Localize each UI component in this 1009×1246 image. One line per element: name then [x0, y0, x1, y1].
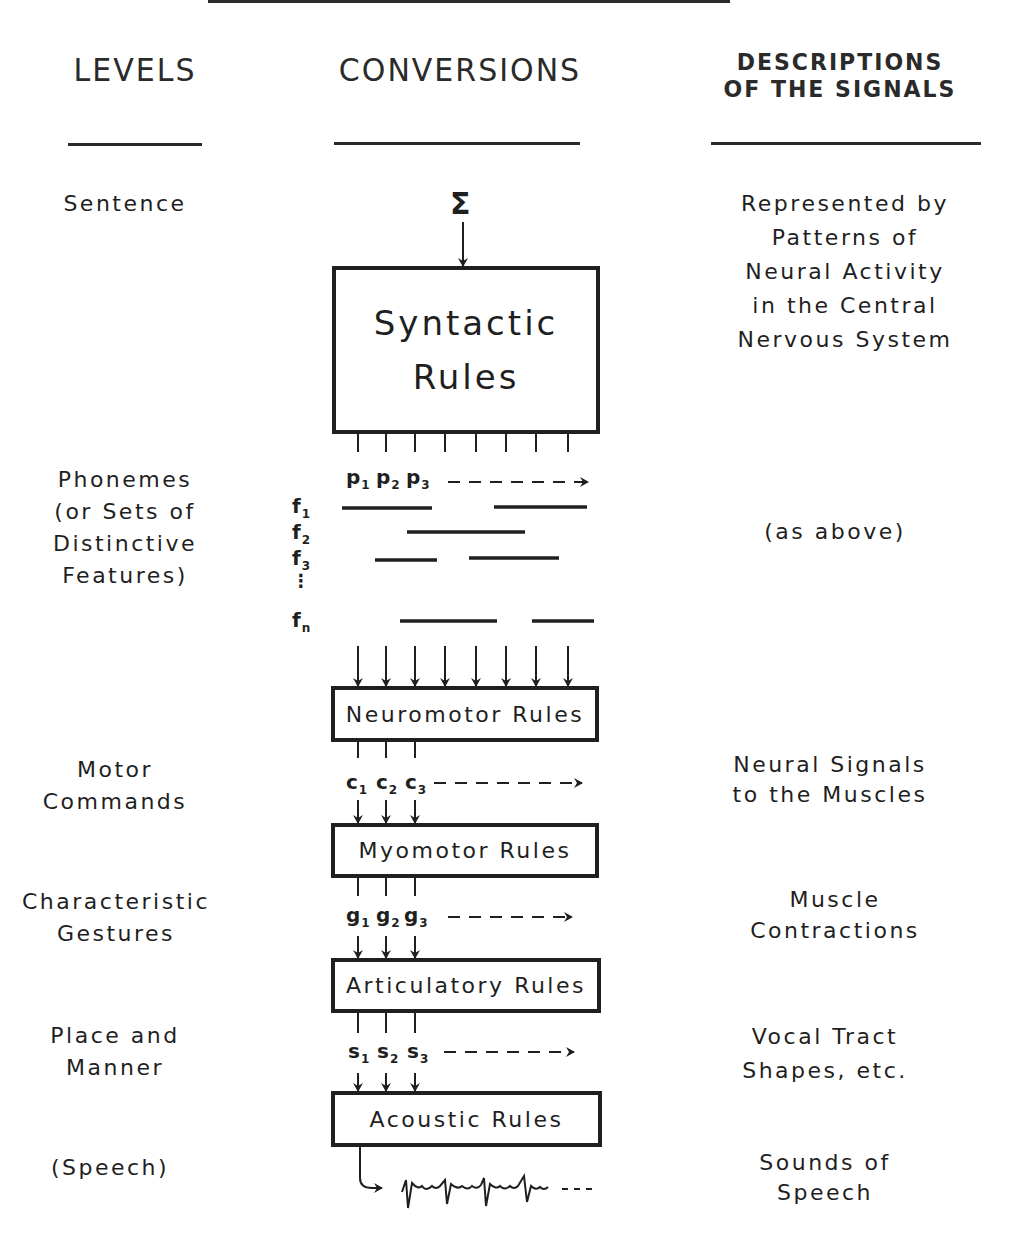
- gesture-g2: g2: [376, 903, 401, 930]
- phoneme-p1: p1: [346, 465, 371, 492]
- shape-s1: s1: [348, 1039, 370, 1066]
- motor-c2: c2: [376, 770, 398, 797]
- shape-s2: s2: [377, 1039, 399, 1066]
- shape-s3: s3: [407, 1039, 429, 1066]
- neuromotor-rules-label: Neuromotor Rules: [346, 702, 584, 727]
- feature-ellipsis: ⋮: [292, 570, 311, 591]
- syntactic-rules-line2: Rules: [374, 350, 559, 404]
- syntactic-rules-line1: Syntactic: [374, 296, 559, 350]
- myomotor-rules-box: Myomotor Rules: [331, 823, 599, 878]
- diagram-lines: [0, 0, 1009, 1246]
- motor-c3: c3: [405, 770, 427, 797]
- acoustic-rules-label: Acoustic Rules: [370, 1107, 564, 1132]
- articulatory-rules-box: Articulatory Rules: [331, 958, 601, 1013]
- feature-fn: fn: [292, 608, 311, 635]
- articulatory-rules-label: Articulatory Rules: [346, 973, 586, 998]
- feature-bars: [342, 507, 594, 621]
- phoneme-p3: p3: [406, 465, 431, 492]
- gesture-g1: g1: [346, 903, 371, 930]
- speech-waveform-icon: [402, 1176, 598, 1208]
- motor-c1: c1: [346, 770, 368, 797]
- gesture-g3: g3: [404, 903, 429, 930]
- syntactic-rules-box: Syntactic Rules: [332, 266, 600, 434]
- phoneme-p2: p2: [376, 465, 401, 492]
- myomotor-rules-label: Myomotor Rules: [359, 838, 572, 863]
- feature-f1: f1: [292, 494, 311, 521]
- sigma-symbol: Σ: [450, 186, 471, 221]
- feature-f3: f3: [292, 546, 311, 573]
- neuromotor-rules-box: Neuromotor Rules: [331, 686, 599, 742]
- feature-f2: f2: [292, 520, 311, 547]
- acoustic-rules-box: Acoustic Rules: [331, 1091, 602, 1147]
